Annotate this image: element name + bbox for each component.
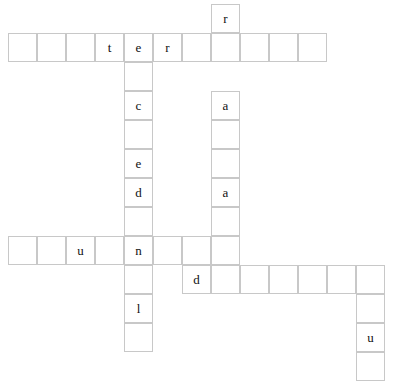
crossword-cell-blank[interactable] <box>37 33 66 62</box>
crossword-cell-blank[interactable] <box>356 352 385 381</box>
crossword-cell-blank[interactable] <box>356 294 385 323</box>
crossword-cell-blank[interactable] <box>95 236 124 265</box>
crossword-cell-blank[interactable] <box>211 33 240 62</box>
crossword-cell-blank[interactable] <box>211 149 240 178</box>
crossword-cell-blank[interactable] <box>8 33 37 62</box>
crossword-cell-blank[interactable] <box>240 33 269 62</box>
crossword-cell-blank[interactable] <box>37 236 66 265</box>
crossword-cell-letter[interactable]: u <box>356 323 385 352</box>
crossword-cell-blank[interactable] <box>298 265 327 294</box>
crossword-cell-blank[interactable] <box>124 120 153 149</box>
crossword-cell-blank[interactable] <box>8 236 37 265</box>
crossword-cell-letter[interactable]: a <box>211 91 240 120</box>
crossword-cell-letter[interactable]: t <box>95 33 124 62</box>
crossword-cell-letter[interactable]: d <box>182 265 211 294</box>
crossword-cell-letter[interactable]: a <box>211 178 240 207</box>
crossword-cell-letter[interactable]: n <box>124 236 153 265</box>
crossword-cell-blank[interactable] <box>124 323 153 352</box>
crossword-cell-letter[interactable]: r <box>211 4 240 33</box>
crossword-cell-blank[interactable] <box>211 265 240 294</box>
crossword-cell-blank[interactable] <box>124 62 153 91</box>
crossword-cell-blank[interactable] <box>211 120 240 149</box>
crossword-cell-letter[interactable]: c <box>124 91 153 120</box>
crossword-cell-blank[interactable] <box>182 236 211 265</box>
crossword-cell-blank[interactable] <box>124 207 153 236</box>
crossword-cell-blank[interactable] <box>153 236 182 265</box>
crossword-cell-blank[interactable] <box>269 265 298 294</box>
crossword-cell-letter[interactable]: e <box>124 33 153 62</box>
crossword-cell-blank[interactable] <box>124 265 153 294</box>
crossword-cell-blank[interactable] <box>327 265 356 294</box>
crossword-cell-blank[interactable] <box>182 33 211 62</box>
crossword-cell-blank[interactable] <box>298 33 327 62</box>
crossword-cell-blank[interactable] <box>211 236 240 265</box>
crossword-cell-letter[interactable]: r <box>153 33 182 62</box>
crossword-cell-blank[interactable] <box>66 33 95 62</box>
crossword-cell-blank[interactable] <box>356 265 385 294</box>
crossword-cell-letter[interactable]: l <box>124 294 153 323</box>
crossword-cell-blank[interactable] <box>269 33 298 62</box>
crossword-cell-letter[interactable]: u <box>66 236 95 265</box>
crossword-cell-blank[interactable] <box>240 265 269 294</box>
crossword-cell-letter[interactable]: d <box>124 178 153 207</box>
crossword-cell-blank[interactable] <box>211 207 240 236</box>
crossword-cell-letter[interactable]: e <box>124 149 153 178</box>
